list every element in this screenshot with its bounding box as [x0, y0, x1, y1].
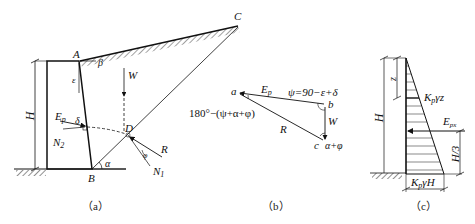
svg-text:N2: N2 [52, 136, 64, 150]
label-A: A [72, 48, 80, 60]
label-psi-equation: ψ=90−ε+δ [288, 86, 338, 98]
label-alpha: α [105, 158, 111, 169]
label-z: z [387, 77, 398, 82]
label-R-b: R [279, 123, 287, 135]
panel-b: a b c Ep ψ=90−ε+δ W R 180°−(ψ+α+φ) α+φ （… [189, 83, 343, 212]
caption-b: （b） [262, 200, 290, 212]
label-B: B [88, 172, 95, 184]
label-delta: δ [75, 115, 80, 126]
base-ground [14, 169, 126, 176]
panel-c: H z H/3 Kpγz Epx KpγH （c） [370, 56, 465, 212]
label-angle-c: α+φ [325, 140, 343, 151]
label-KpgH: KpγH [410, 176, 436, 190]
label-Kpgz: Kpγz [423, 91, 445, 105]
label-Ep-b: Ep [260, 83, 272, 97]
svg-text:KpγH: KpγH [410, 176, 436, 190]
retaining-wall [47, 61, 92, 169]
caption-c: （c） [410, 200, 437, 212]
height-dimension: H [23, 59, 47, 171]
label-Ep: Ep [54, 110, 66, 124]
label-H: H [23, 110, 37, 121]
label-beta: β [97, 57, 103, 68]
vertex-c: c [314, 139, 319, 151]
label-N2: N2 [52, 136, 64, 150]
label-Epx: Epx [442, 115, 457, 129]
label-D: D [124, 122, 133, 134]
label-H3: H/3 [449, 145, 461, 163]
svg-text:Epx: Epx [442, 115, 457, 129]
backfill-surface [80, 26, 240, 67]
label-N1: N1 [152, 165, 164, 179]
caption-a: （a） [82, 200, 109, 212]
label-C: C [234, 10, 242, 22]
label-phi: φ [143, 151, 148, 160]
label-W-b: W [328, 115, 338, 127]
vertex-a: a [231, 85, 237, 97]
label-angle-a: 180°−(ψ+α+φ) [189, 107, 255, 120]
label-H-c: H [372, 112, 386, 123]
label-R: R [160, 143, 168, 155]
vertex-b: b [328, 98, 334, 110]
svg-text:Kpγz: Kpγz [423, 91, 445, 105]
svg-text:Ep: Ep [260, 83, 272, 97]
label-W: W [128, 69, 138, 81]
svg-text:N1: N1 [152, 165, 164, 179]
label-epsilon: ε [72, 75, 76, 85]
pressure-distribution [406, 58, 444, 174]
svg-text:Ep: Ep [54, 110, 66, 124]
passive-earth-pressure-figure: H A B C D W R β ε [0, 0, 475, 224]
